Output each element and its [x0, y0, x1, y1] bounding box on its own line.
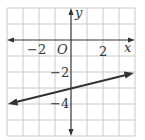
y-tick-label-neg4: −4: [50, 96, 69, 111]
y-axis-up-arrow-icon: [69, 8, 74, 15]
line-right-arrow-icon: [124, 72, 134, 79]
y-tick-label-neg2: −2: [50, 65, 69, 80]
x-tick-label-2: 2: [99, 44, 107, 59]
x-axis-left-arrow-icon: [7, 38, 14, 43]
graph: y x O −2 2 −2 −4: [0, 0, 145, 140]
y-axis-label: y: [74, 5, 83, 20]
origin-label: O: [57, 42, 68, 57]
y-axis-down-arrow-icon: [69, 129, 74, 136]
x-axis-label: x: [124, 40, 132, 55]
x-tick-label-neg2: −2: [27, 42, 46, 57]
